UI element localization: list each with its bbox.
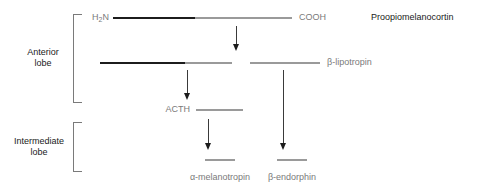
pomc-segment-gray [195,17,292,19]
anterior-lobe-label-line2: lobe [18,58,68,69]
n-terminus-label: H2N [92,12,109,25]
intermediate-lobe-label-line1: Intermediate [10,136,68,147]
beta-endorphin-segment [277,159,307,161]
n-terminus-n: N [102,12,109,22]
anterior-lobe-label-line1: Anterior [18,47,68,58]
pomc-segment-black [113,17,195,19]
arrow-to-beta-endorphin [279,70,288,150]
c-terminus-label: COOH [299,12,326,23]
proopiomelanocortin-diagram: Anterior lobe Intermediate lobe H2N COOH… [0,0,479,192]
acth-segment [196,109,243,111]
beta-lipotropin-segment [250,62,320,64]
alpha-melanotropin-segment [205,159,235,161]
intermediate-lobe-bracket [73,122,82,172]
arrow-to-alpha-melanotropin [204,119,213,150]
beta-endorphin-label: β-endorphin [237,172,347,183]
anterior-lobe-bracket [73,14,82,103]
intermediate-lobe-label-line2: lobe [10,147,68,158]
beta-lipotropin-label: β-lipotropin [327,57,372,68]
acth-precursor-segment-black [100,62,185,64]
proopiomelanocortin-label: Proopiomelanocortin [371,12,454,23]
acth-label: ACTH [140,104,190,115]
arrow-pomc-to-products [232,26,241,51]
acth-precursor-segment-gray [185,62,232,64]
arrow-to-acth [183,70,192,100]
